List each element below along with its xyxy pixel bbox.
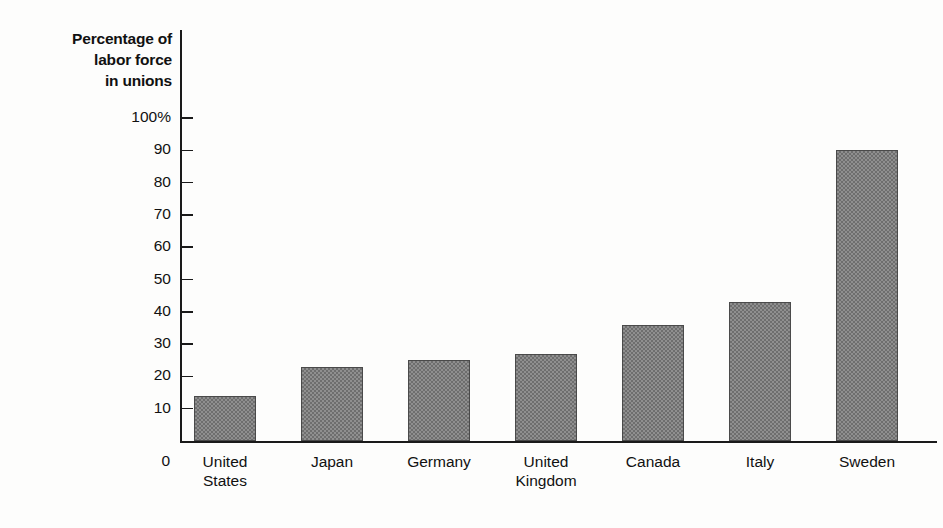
x-axis-label-italy: Italy bbox=[700, 452, 820, 471]
x-axis-label-line-1: United bbox=[486, 452, 606, 471]
bar-united-states bbox=[194, 396, 256, 441]
bar-germany bbox=[408, 360, 470, 441]
x-axis-label-line-1: Japan bbox=[272, 452, 392, 471]
x-axis-label-line-2: States bbox=[165, 471, 285, 490]
bars-layer bbox=[0, 0, 943, 528]
x-axis-label-germany: Germany bbox=[379, 452, 499, 471]
x-axis-zero-label: 0 bbox=[120, 452, 170, 470]
x-axis-label-canada: Canada bbox=[593, 452, 713, 471]
x-axis-label-line-1: Italy bbox=[700, 452, 820, 471]
bar-chart: Percentage of labor force in unions 1020… bbox=[0, 0, 943, 528]
x-axis-label-sweden: Sweden bbox=[807, 452, 927, 471]
bar-japan bbox=[301, 367, 363, 441]
bar-canada bbox=[622, 325, 684, 441]
x-axis-label-line-2: Kingdom bbox=[486, 471, 606, 490]
x-axis-label-united-kingdom: UnitedKingdom bbox=[486, 452, 606, 490]
x-axis-label-line-1: United bbox=[165, 452, 285, 471]
bar-italy bbox=[729, 302, 791, 441]
x-axis-label-japan: Japan bbox=[272, 452, 392, 471]
x-axis-label-line-1: Sweden bbox=[807, 452, 927, 471]
bar-united-kingdom bbox=[515, 354, 577, 441]
x-axis-label-united-states: UnitedStates bbox=[165, 452, 285, 490]
x-axis-label-line-1: Canada bbox=[593, 452, 713, 471]
x-axis-label-line-1: Germany bbox=[379, 452, 499, 471]
bar-sweden bbox=[836, 150, 898, 441]
